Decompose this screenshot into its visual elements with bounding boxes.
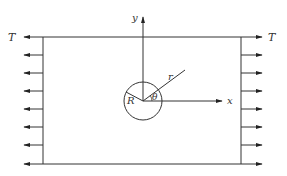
radial-coordinate-label: r	[168, 71, 174, 82]
plate-with-hole-diagram: T T y x r R θ	[0, 0, 287, 176]
y-axis-label: y	[131, 12, 138, 23]
hole-radius-label: R	[126, 95, 135, 106]
tension-left-label: T	[8, 31, 17, 44]
x-axis-label: x	[227, 95, 233, 106]
right-traction-arrows	[241, 37, 262, 164]
angle-theta-label: θ	[152, 92, 158, 102]
radial-line-r	[143, 70, 185, 101]
tension-right-label: T	[268, 31, 277, 44]
diagram-canvas: T T y x r R θ	[0, 0, 287, 176]
left-traction-arrows	[24, 37, 43, 164]
